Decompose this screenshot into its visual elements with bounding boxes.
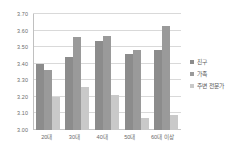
legend-item-label: 친구 (197, 59, 207, 66)
bar (154, 50, 162, 130)
legend-item[interactable]: 가족 (190, 68, 252, 80)
bar (73, 37, 81, 130)
y-axis-tick-labels: 3.003.103.203.303.403.503.603.70 (0, 14, 31, 130)
y-axis-tick-label: 3.20 (17, 94, 28, 100)
bar (95, 41, 103, 130)
bar-group (63, 14, 93, 130)
y-axis-tick-label: 3.30 (17, 77, 28, 83)
y-axis-tick-label: 3.10 (17, 110, 28, 116)
y-axis-tick-label: 3.50 (17, 44, 28, 50)
legend-swatch-icon (190, 72, 194, 76)
bar (125, 54, 133, 130)
legend-item-label: 가족 (197, 71, 207, 78)
bar (44, 70, 52, 130)
legend-item[interactable]: 주변 전문가 (190, 80, 252, 92)
y-axis-tick-label: 3.60 (17, 28, 28, 34)
legend: 친구가족주변 전문가 (190, 56, 252, 92)
bar (111, 95, 119, 130)
bar (162, 26, 170, 130)
bar-group (33, 14, 63, 130)
bar-group (122, 14, 152, 130)
bar-chart: 3.003.103.203.303.403.503.603.70 20대30대4… (0, 0, 252, 156)
bar (52, 97, 60, 130)
bar-group (151, 14, 181, 130)
y-axis-tick-label: 3.40 (17, 61, 28, 67)
bar-groups (33, 14, 181, 130)
bar (36, 64, 44, 130)
bar (141, 118, 149, 130)
bar (81, 87, 89, 130)
x-axis-tick-label: 40대 (88, 133, 116, 147)
bar (133, 50, 141, 130)
x-axis-tick-label: 30대 (61, 133, 89, 147)
bar (65, 57, 73, 130)
bar (170, 115, 178, 130)
y-axis-tick-label: 3.00 (17, 127, 28, 133)
legend-swatch-icon (190, 60, 194, 64)
x-axis-tick-label: 60대 이상 (144, 133, 181, 147)
bar (103, 36, 111, 130)
x-axis-tick-label: 20대 (33, 133, 61, 147)
legend-swatch-icon (190, 84, 194, 88)
x-axis-tick-labels: 20대30대40대50대60대 이상 (33, 133, 181, 147)
plot-area (33, 14, 181, 130)
legend-item-label: 주변 전문가 (197, 83, 224, 90)
legend-item[interactable]: 친구 (190, 56, 252, 68)
y-axis-tick-label: 3.70 (17, 11, 28, 17)
bar-group (92, 14, 122, 130)
x-axis-tick-label: 50대 (116, 133, 144, 147)
y-axis-line (33, 14, 34, 130)
